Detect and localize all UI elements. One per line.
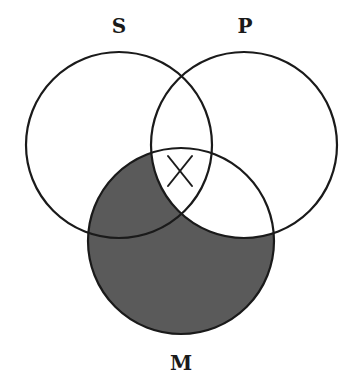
shaded-region-m-not-p bbox=[0, 0, 352, 381]
label-s: S bbox=[112, 14, 126, 38]
label-m: M bbox=[170, 351, 192, 375]
venn-diagram: S P M bbox=[0, 0, 352, 381]
label-p: P bbox=[237, 14, 252, 38]
